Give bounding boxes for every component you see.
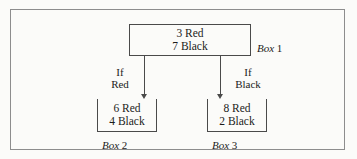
right-branch-arrow-stem bbox=[220, 56, 221, 95]
box2-red-count: 6 Red bbox=[113, 102, 140, 115]
box3-red-count: 8 Red bbox=[223, 102, 250, 115]
box2-caption: Box 2 bbox=[102, 139, 127, 151]
left-branch-label-line2: Red bbox=[111, 78, 129, 90]
box2-caption-word: Box bbox=[102, 139, 119, 151]
box3-caption: Box 3 bbox=[212, 139, 237, 151]
box3-caption-number: 3 bbox=[232, 139, 238, 151]
box2-contents: 6 Red 4 Black bbox=[97, 99, 157, 132]
box1-bottom-border bbox=[129, 55, 251, 56]
box3-caption-word: Box bbox=[212, 139, 229, 151]
right-branch-label-line1: If bbox=[244, 66, 251, 78]
figure-frame: 3 Red 7 Black Box 1 If Red If Black 6 Re… bbox=[10, 9, 345, 150]
left-branch-label: If Red bbox=[99, 66, 141, 91]
box3-black-count: 2 Black bbox=[219, 115, 254, 128]
box1-caption: Box 1 bbox=[257, 42, 282, 54]
right-branch-label: If Black bbox=[225, 66, 271, 91]
probability-tree-figure: 3 Red 7 Black Box 1 If Red If Black 6 Re… bbox=[0, 0, 357, 159]
left-branch-arrow-stem bbox=[144, 56, 145, 95]
box2-caption-number: 2 bbox=[122, 139, 128, 151]
box1-caption-number: 1 bbox=[277, 42, 283, 54]
box1-red-count: 3 Red bbox=[176, 27, 203, 40]
right-branch-label-line2: Black bbox=[235, 78, 261, 90]
box1-contents: 3 Red 7 Black bbox=[129, 25, 251, 55]
box3-contents: 8 Red 2 Black bbox=[207, 99, 267, 132]
box1-caption-word: Box bbox=[257, 42, 274, 54]
box2-black-count: 4 Black bbox=[109, 115, 144, 128]
left-branch-label-line1: If bbox=[116, 66, 123, 78]
box1-black-count: 7 Black bbox=[172, 40, 207, 53]
